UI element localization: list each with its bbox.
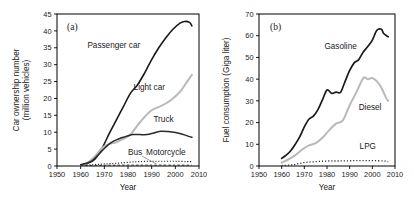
y-tick-label-40: 40 xyxy=(245,75,253,84)
x-tick-label-2000: 2000 xyxy=(167,170,183,179)
series-label-truck: Truck xyxy=(153,115,174,124)
x-tick-label-1990: 1990 xyxy=(341,170,357,179)
x-tick-label-2010: 2010 xyxy=(387,170,403,179)
chart-panel-a: 0510152025303540451950196019701980199020… xyxy=(0,0,207,201)
y-tick-label-35: 35 xyxy=(43,43,51,52)
x-tick-label-2000: 2000 xyxy=(364,170,380,179)
y-tick-label-10: 10 xyxy=(43,128,51,137)
x-tick-label-1960: 1960 xyxy=(273,170,289,179)
y-tick-label-30: 30 xyxy=(43,60,51,69)
series-label-passenger-car: Passenger car xyxy=(87,41,140,50)
x-tick-label-1970: 1970 xyxy=(296,170,312,179)
x-tick-label-1980: 1980 xyxy=(120,170,136,179)
plot-frame xyxy=(57,14,199,166)
x-tick-label-1950: 1950 xyxy=(49,170,65,179)
figure-container: 0510152025303540451950196019701980199020… xyxy=(0,0,414,201)
x-tick-label-1990: 1990 xyxy=(143,170,159,179)
y-tick-label-60: 60 xyxy=(245,31,253,40)
series-label-motorcycle: Motorcycle xyxy=(146,148,186,157)
panel-a-svg: 0510152025303540451950196019701980199020… xyxy=(0,0,207,201)
y-tick-label-45: 45 xyxy=(43,10,51,19)
x-tick-label-1970: 1970 xyxy=(96,170,112,179)
x-tick-label-2010: 2010 xyxy=(191,170,207,179)
panel-b-svg: 0102030405060701950196019701980199020002… xyxy=(207,0,414,201)
panel-tag-panel-b: (b) xyxy=(270,22,281,33)
chart-panel-b: 0102030405060701950196019701980199020002… xyxy=(207,0,414,201)
y-axis-label-panel-b-0: Fuel consumption (Giga liter) xyxy=(222,37,231,142)
y-tick-label-20: 20 xyxy=(245,118,253,127)
y-tick-label-30: 30 xyxy=(245,97,253,106)
x-tick-label-1960: 1960 xyxy=(72,170,88,179)
y-axis-label-panel-a-1: (million vehicles) xyxy=(22,59,31,120)
y-tick-label-10: 10 xyxy=(245,140,253,149)
x-tick-label-1950: 1950 xyxy=(251,170,267,179)
series-label-gasoline: Gasoline xyxy=(324,42,357,51)
panel-tag-panel-a: (a) xyxy=(67,22,78,33)
series-label-bus: Bus xyxy=(128,148,142,157)
series-label-lpg: LPG xyxy=(360,142,376,151)
x-tick-label-1980: 1980 xyxy=(319,170,335,179)
y-axis-label-panel-a-0: Car ownership number xyxy=(12,48,21,131)
y-tick-label-20: 20 xyxy=(43,94,51,103)
y-tick-label-50: 50 xyxy=(245,53,253,62)
y-tick-label-5: 5 xyxy=(47,145,51,154)
x-axis-label-panel-b: Year xyxy=(319,183,336,192)
x-axis-label-panel-a: Year xyxy=(120,183,137,192)
series-label-light-car: Light car xyxy=(134,83,166,92)
y-tick-label-40: 40 xyxy=(43,27,51,36)
y-tick-label-15: 15 xyxy=(43,111,51,120)
series-label-diesel: Diesel xyxy=(359,103,382,112)
y-tick-label-25: 25 xyxy=(43,77,51,86)
y-tick-label-70: 70 xyxy=(245,10,253,19)
